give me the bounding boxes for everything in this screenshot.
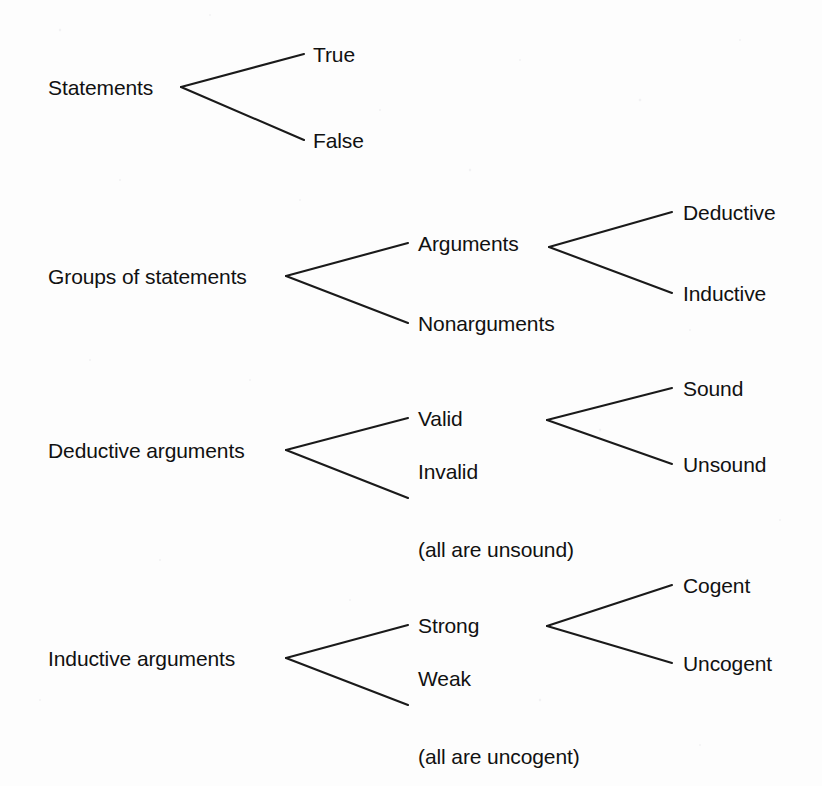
node-sound: Sound [683,376,743,401]
node-false: False [313,128,364,153]
node-invalid-note: (all are unsound) [418,537,574,563]
node-weak: Weak (all are uncogent) [418,614,580,786]
node-arguments: Arguments [418,231,519,256]
node-invalid: Invalid (all are unsound) [418,407,574,615]
node-nonarguments: Nonarguments [418,311,555,336]
node-unsound: Unsound [683,452,766,477]
branch-deductive-valid [286,418,408,450]
node-weak-note: (all are uncogent) [418,744,580,770]
node-groups-of-statements: Groups of statements [48,264,247,289]
node-true: True [313,42,355,67]
branch-arguments-deductive [549,212,672,247]
node-weak-title: Weak [418,666,580,692]
branch-inductive-weak [286,658,408,705]
branch-groups-nonarguments [286,276,408,323]
node-deductive: Deductive [683,200,775,225]
node-uncogent: Uncogent [683,651,772,676]
node-inductive: Inductive [683,281,766,306]
classification-tree-diagram: Statements True False Groups of statemen… [0,0,822,786]
branch-statements-true [181,54,304,87]
node-cogent: Cogent [683,573,750,598]
node-statements: Statements [48,75,153,100]
node-invalid-title: Invalid [418,459,574,485]
branch-inductive-strong [286,625,408,658]
node-deductive-arguments: Deductive arguments [48,438,245,463]
branch-statements-false [181,87,304,140]
branch-arguments-inductive [549,247,672,293]
branch-groups-arguments [286,243,408,276]
node-inductive-arguments: Inductive arguments [48,646,235,671]
branch-deductive-invalid [286,450,408,498]
